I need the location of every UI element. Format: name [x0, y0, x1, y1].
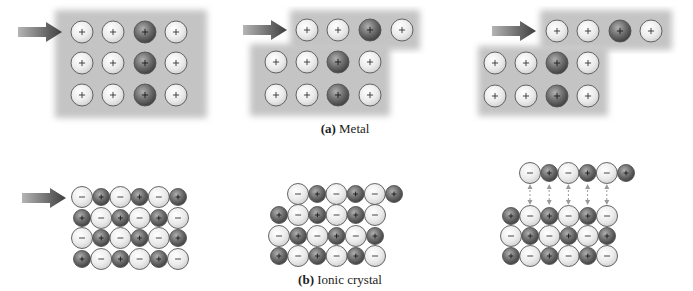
metal-cation [71, 52, 93, 74]
cation [93, 189, 110, 206]
cation [579, 165, 596, 182]
metal-cation [71, 21, 93, 43]
metal-cation [515, 85, 537, 107]
cation [367, 228, 384, 245]
metal-panel-shifting [243, 10, 420, 116]
cation [131, 189, 148, 206]
cation [579, 248, 596, 265]
metal-cation [165, 52, 187, 74]
anion [269, 226, 290, 247]
metal-cation [265, 51, 287, 73]
metal-cation [165, 84, 187, 106]
repulsion-arrow-icon [585, 184, 590, 205]
anion [288, 205, 309, 226]
metal-cation [296, 84, 318, 106]
anion [326, 205, 347, 226]
metal-cation [134, 21, 156, 43]
anion [520, 246, 541, 267]
metal-cation [359, 51, 381, 73]
repulsion-arrow-icon [566, 184, 571, 205]
anion [326, 246, 347, 267]
repulsion-arrow-icon [547, 184, 552, 205]
metal-cation [71, 84, 93, 106]
cation [74, 210, 91, 227]
cation [328, 228, 345, 245]
cation [347, 207, 364, 224]
cation [522, 228, 539, 245]
anion [558, 206, 579, 227]
crystal-deformation-figure: (a) Metal (b) Ionic crystal [0, 0, 693, 291]
anion [129, 249, 150, 270]
push-arrow-icon [243, 20, 287, 40]
metal-cation [102, 21, 124, 43]
cation [599, 228, 616, 245]
caption-ionic-text: Ionic crystal [314, 272, 382, 287]
anion [168, 249, 189, 270]
cation [541, 208, 558, 225]
metal-cation [327, 19, 349, 41]
metal-cation [296, 19, 318, 41]
anion [364, 184, 385, 205]
push-arrow-icon [22, 188, 66, 208]
repulsion-arrow-icon [528, 184, 533, 205]
metal-cation [546, 52, 568, 74]
anion [72, 228, 93, 249]
metal-panel-shifted [478, 10, 672, 116]
metal-cation [391, 19, 413, 41]
anion [307, 226, 328, 247]
anion [558, 163, 579, 184]
push-arrow-icon [492, 21, 536, 41]
cation [347, 248, 364, 265]
metal-cation [359, 84, 381, 106]
metal-cation [546, 85, 568, 107]
anion [520, 163, 541, 184]
metal-cation [134, 52, 156, 74]
caption-metal: (a) Metal [321, 121, 370, 137]
cation [560, 228, 577, 245]
metal-cation [640, 20, 662, 42]
caption-metal-label: (a) [321, 121, 336, 136]
cation [74, 251, 91, 268]
metal-cation [296, 51, 318, 73]
cation [579, 208, 596, 225]
anion [72, 187, 93, 208]
metal-cation [359, 19, 381, 41]
cation [271, 248, 288, 265]
anion [596, 163, 617, 184]
metal-cation [577, 52, 599, 74]
cation [150, 251, 167, 268]
metal-cation [609, 20, 631, 42]
anion [539, 226, 560, 247]
anion [129, 208, 150, 229]
anion [597, 206, 618, 227]
cation [271, 207, 288, 224]
repulsion-arrow-icon [604, 184, 609, 205]
cation [541, 165, 558, 182]
caption-ionic: (b) Ionic crystal [298, 272, 382, 288]
cation [150, 210, 167, 227]
cation [309, 207, 326, 224]
metal-cation [577, 85, 599, 107]
metal-cation [484, 85, 506, 107]
metal-cation [102, 84, 124, 106]
anion [365, 205, 386, 226]
cation [503, 248, 520, 265]
ionic-panel-repulsion [501, 163, 635, 267]
cation [386, 186, 403, 203]
metal-section [18, 10, 672, 118]
anion [91, 208, 112, 229]
anion [326, 184, 347, 205]
cation [541, 248, 558, 265]
metal-cation [102, 52, 124, 74]
metal-cation [134, 84, 156, 106]
anion [288, 184, 309, 205]
metal-cation [165, 21, 187, 43]
anion [345, 226, 366, 247]
figure-canvas [0, 0, 693, 291]
metal-cation [265, 84, 287, 106]
cation [170, 230, 187, 247]
cation [618, 165, 635, 182]
cation [290, 228, 307, 245]
cation [112, 210, 129, 227]
metal-panel-initial [18, 10, 207, 118]
